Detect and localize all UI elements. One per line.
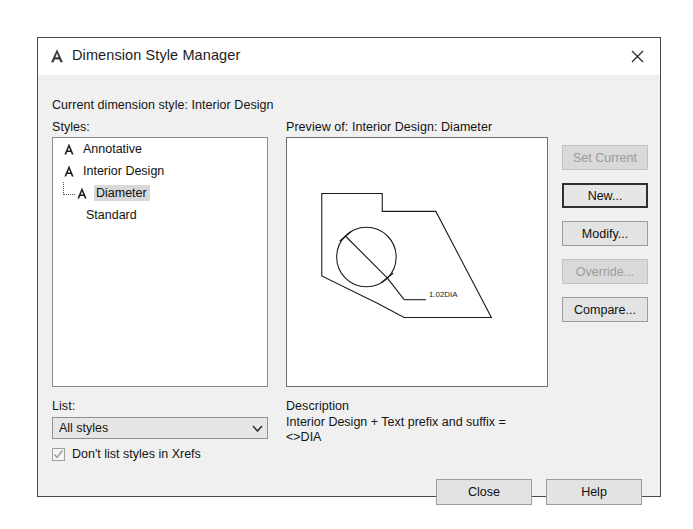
dimension-style-icon — [75, 186, 94, 200]
preview-drawing: 1.02DIA — [287, 138, 547, 386]
dialog-title: Dimension Style Manager — [72, 47, 240, 63]
compare-button[interactable]: Compare... — [562, 297, 648, 322]
set-current-button[interactable]: Set Current — [562, 145, 648, 170]
style-list-item-label: Interior Design — [81, 163, 167, 179]
autocad-a-icon — [48, 47, 66, 65]
style-list-item-label: Diameter — [94, 185, 150, 201]
checkbox-label: Don't list styles in Xrefs — [72, 447, 201, 461]
styles-list[interactable]: AnnotativeInterior DesignDiameterStandar… — [52, 137, 268, 387]
preview-dimension-text: 1.02DIA — [429, 290, 458, 299]
description-label: Description — [286, 399, 349, 413]
tree-branch-line — [63, 182, 75, 195]
style-list-item-label: Standard — [84, 207, 140, 223]
dialog-body: Current dimension style: Interior Design… — [38, 75, 660, 496]
styles-group-label: Styles: — [52, 120, 90, 134]
style-list-item[interactable]: Annotative — [53, 138, 267, 160]
override-button[interactable]: Override... — [562, 259, 648, 284]
close-button[interactable]: Close — [436, 479, 532, 505]
close-icon[interactable] — [614, 38, 660, 74]
modify-button[interactable]: Modify... — [562, 221, 648, 246]
dimension-style-icon — [62, 164, 81, 178]
list-filter-label: List: — [52, 399, 75, 413]
description-text: Interior Design + Text prefix and suffix… — [286, 415, 548, 463]
dimension-style-icon — [62, 142, 81, 156]
style-list-item[interactable]: Interior Design — [53, 160, 267, 182]
style-list-item[interactable]: Standard — [53, 204, 267, 226]
new-button[interactable]: New... — [562, 183, 648, 208]
style-list-item-label: Annotative — [81, 141, 145, 157]
style-list-item[interactable]: Diameter — [53, 182, 267, 204]
title-bar: Dimension Style Manager — [38, 38, 660, 75]
list-filter-value: All styles — [53, 421, 247, 435]
list-filter-select[interactable]: All styles — [52, 417, 268, 439]
check-icon — [53, 449, 64, 460]
chevron-down-icon — [247, 425, 267, 432]
help-button[interactable]: Help — [546, 479, 642, 505]
preview-panel: 1.02DIA — [286, 137, 548, 387]
dont-list-xrefs-checkbox[interactable]: Don't list styles in Xrefs — [52, 447, 201, 461]
current-style-label: Current dimension style: Interior Design — [52, 98, 274, 112]
preview-group-label: Preview of: Interior Design: Diameter — [286, 120, 492, 134]
dimension-style-manager-dialog: Dimension Style Manager Current dimensio… — [37, 37, 661, 497]
checkbox-box — [52, 448, 65, 461]
